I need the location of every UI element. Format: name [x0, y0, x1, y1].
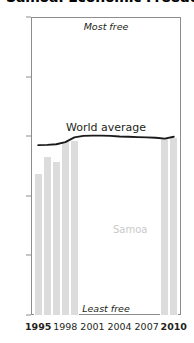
samoa-series-label: Samoa [113, 224, 147, 235]
world-average-line [31, 17, 181, 315]
least-free-label: Least free [82, 303, 130, 314]
x-tick-label-2007: 2007 [135, 321, 159, 332]
x-axis: 199519982001200420072010 [0, 315, 194, 343]
economic-freedom-chart: Samoa: Economic Freedom 020406080100 199… [0, 0, 194, 343]
most-free-label: Most free [84, 21, 129, 32]
x-tick-label-2004: 2004 [107, 321, 131, 332]
y-axis: 020406080100 [0, 0, 31, 343]
world-average-label: World average [66, 121, 146, 134]
x-tick-label-2001: 2001 [80, 321, 104, 332]
chart-title: Samoa: Economic Freedom [6, 0, 194, 5]
x-tick-label-1995: 1995 [25, 321, 51, 332]
line-layer [31, 17, 181, 315]
x-tick-label-2010: 2010 [161, 321, 187, 332]
x-tick-label-1998: 1998 [53, 321, 77, 332]
